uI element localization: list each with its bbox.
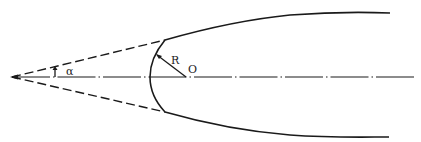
angle-label: α bbox=[66, 65, 74, 78]
upper-cone-generator bbox=[12, 40, 165, 77]
blunted-cone-diagram: α R O bbox=[0, 0, 421, 142]
radius-label: R bbox=[171, 54, 180, 67]
upper-body-contour bbox=[165, 12, 390, 40]
center-label: O bbox=[188, 63, 197, 76]
lower-body-contour bbox=[165, 112, 389, 137]
nose-arc bbox=[150, 40, 165, 112]
lower-cone-generator bbox=[12, 77, 165, 112]
apex-mark bbox=[10, 75, 18, 80]
